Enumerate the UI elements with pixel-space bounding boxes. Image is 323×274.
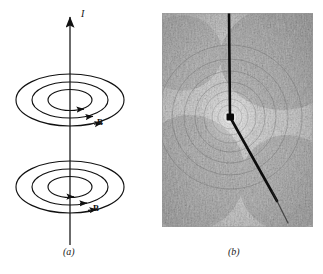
wire-node bbox=[227, 114, 235, 121]
b-field-label-upper: B bbox=[97, 117, 103, 127]
b-field-label-lower: B bbox=[93, 203, 99, 213]
panel-b-iron-filings-photograph bbox=[162, 13, 313, 227]
figure-magnetic-field-around-wire: I B B bbox=[0, 0, 323, 274]
iron-filings-image bbox=[162, 13, 313, 227]
caption-a: (a) bbox=[63, 246, 75, 257]
current-label-I: I bbox=[81, 8, 84, 19]
wire-upper-segment bbox=[229, 13, 230, 117]
field-line-drawing bbox=[0, 0, 158, 274]
panel-a-field-line-diagram: I B B bbox=[0, 0, 158, 274]
caption-b: (b) bbox=[228, 246, 240, 257]
